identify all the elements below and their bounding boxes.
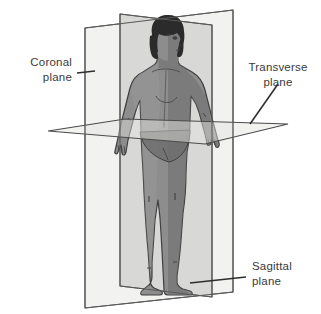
coronal-label-line1: Coronal: [30, 56, 72, 68]
coronal-label-line2: plane: [43, 71, 72, 83]
sagittal-label-line1: Sagittal: [252, 260, 292, 272]
transverse-plane-shape: [48, 119, 288, 144]
label-transverse-plane: Transverse plane: [248, 61, 307, 88]
label-sagittal-plane: Sagittal plane: [252, 260, 292, 287]
sagittal-label-line2: plane: [252, 275, 281, 287]
label-coronal-plane: Coronal plane: [30, 56, 72, 83]
transverse-plane-polygon: [48, 119, 288, 144]
transverse-leader-line: [250, 84, 278, 124]
diagram-canvas: Coronal plane Transverse plane Sagittal …: [0, 0, 321, 314]
anatomical-planes-diagram: Coronal plane Transverse plane Sagittal …: [0, 0, 321, 314]
transverse-label-line2: plane: [263, 76, 292, 88]
transverse-label-line1: Transverse: [248, 61, 307, 73]
eye-icon: [173, 36, 178, 39]
